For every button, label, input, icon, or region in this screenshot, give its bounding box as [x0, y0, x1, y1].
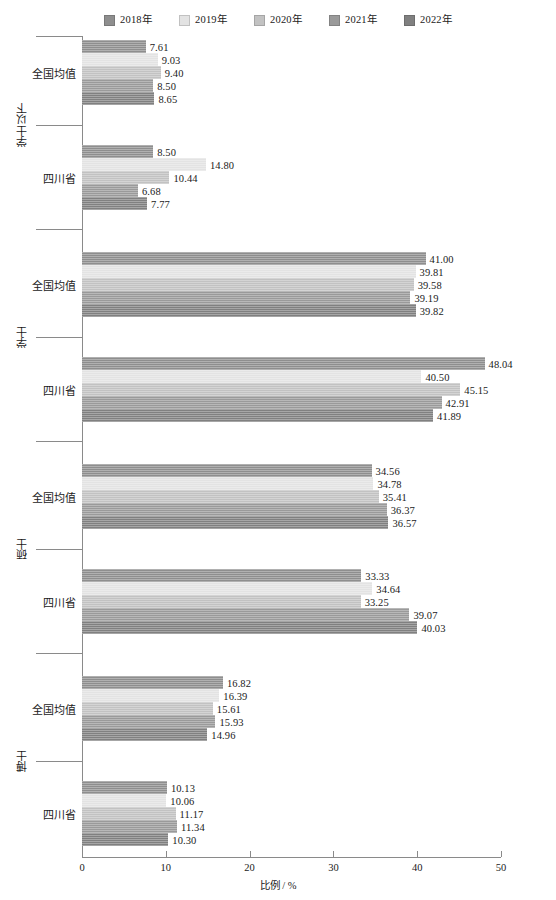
bar-2021年-硕士-全国均值[interactable]	[82, 503, 387, 516]
bar-value-label: 11.34	[181, 821, 205, 832]
legend-item-2019年[interactable]: 2019年	[179, 15, 227, 26]
bar-2018年-学士-四川省[interactable]	[82, 357, 485, 370]
bar-texture	[82, 794, 166, 807]
bar-2020年-学士以下-全国均值[interactable]	[82, 66, 161, 79]
bar-2022年-学士-四川省[interactable]	[82, 409, 433, 422]
bar-2018年-学士-全国均值[interactable]	[82, 252, 426, 265]
bar-2022年-学士以下-全国均值[interactable]	[82, 92, 154, 105]
bar-2021年-博士-全国均值[interactable]	[82, 715, 215, 728]
bar-2019年-硕士-全国均值[interactable]	[82, 477, 373, 490]
bar-value-label: 41.00	[430, 253, 454, 264]
bar-2018年-学士以下-四川省[interactable]	[82, 145, 153, 158]
bar-2019年-博士-全国均值[interactable]	[82, 689, 219, 702]
bar-2021年-硕士-四川省[interactable]	[82, 608, 409, 621]
bar-row: 11.17	[82, 807, 556, 820]
legend-item-2021年[interactable]: 2021年	[329, 15, 377, 26]
bar-value-label: 39.81	[420, 266, 444, 277]
group-divider	[36, 125, 82, 126]
bar-2018年-博士-全国均值[interactable]	[82, 676, 223, 689]
bar-texture	[82, 464, 372, 477]
bar-2021年-学士-全国均值[interactable]	[82, 291, 410, 304]
bar-2020年-硕士-四川省[interactable]	[82, 595, 361, 608]
bar-2022年-硕士-全国均值[interactable]	[82, 516, 388, 529]
legend-label: 2022年	[420, 15, 452, 26]
bar-value-label: 7.61	[150, 41, 169, 52]
bar-row: 16.82	[82, 676, 556, 689]
bar-2019年-学士-四川省[interactable]	[82, 370, 421, 383]
x-axis-label: 比例 / %	[0, 877, 556, 892]
bar-2022年-学士-全国均值[interactable]	[82, 304, 416, 317]
bar-row: 9.03	[82, 53, 556, 66]
subgroup-label-全国均值: 全国均值	[28, 489, 76, 505]
bar-value-label: 34.64	[376, 583, 400, 594]
bar-value-label: 6.68	[142, 185, 161, 196]
bar-2021年-学士-四川省[interactable]	[82, 396, 442, 409]
bar-row: 8.65	[82, 92, 556, 105]
bar-row: 15.61	[82, 702, 556, 715]
legend-swatch-icon	[104, 15, 115, 26]
group-boundary	[36, 653, 82, 654]
subgroup-label-四川省: 四川省	[28, 382, 76, 398]
x-tick-mark	[250, 851, 251, 857]
bar-value-label: 40.50	[425, 371, 449, 382]
bar-2019年-学士以下-全国均值[interactable]	[82, 53, 158, 66]
subgroup-label-四川省: 四川省	[28, 806, 76, 822]
subgroup-label-全国均值: 全国均值	[28, 701, 76, 717]
bar-2018年-硕士-全国均值[interactable]	[82, 464, 372, 477]
bar-texture	[82, 833, 168, 846]
bar-2018年-博士-四川省[interactable]	[82, 781, 167, 794]
bar-row: 34.64	[82, 582, 556, 595]
legend-item-2018年[interactable]: 2018年	[104, 15, 152, 26]
bar-row: 9.40	[82, 66, 556, 79]
bar-value-label: 36.37	[391, 504, 415, 515]
bar-texture	[82, 197, 147, 210]
x-axis-line	[82, 857, 501, 858]
bar-row: 33.25	[82, 595, 556, 608]
bar-value-label: 10.13	[171, 782, 195, 793]
bar-2020年-硕士-全国均值[interactable]	[82, 490, 379, 503]
bar-row: 15.93	[82, 715, 556, 728]
legend-label: 2020年	[270, 15, 302, 26]
bar-2020年-学士-全国均值[interactable]	[82, 278, 414, 291]
bar-2022年-博士-全国均值[interactable]	[82, 728, 207, 741]
bar-2018年-硕士-四川省[interactable]	[82, 569, 361, 582]
bar-texture	[82, 516, 388, 529]
bar-2021年-学士以下-四川省[interactable]	[82, 184, 138, 197]
bar-texture	[82, 396, 442, 409]
bar-texture	[82, 383, 460, 396]
bar-texture	[82, 304, 416, 317]
bar-2018年-学士以下-全国均值[interactable]	[82, 40, 146, 53]
bar-value-label: 10.44	[173, 172, 197, 183]
bar-2020年-学士-四川省[interactable]	[82, 383, 460, 396]
bar-row: 41.89	[82, 409, 556, 422]
legend-item-2022年[interactable]: 2022年	[404, 15, 452, 26]
bar-2019年-学士以下-四川省[interactable]	[82, 158, 206, 171]
bar-value-label: 36.57	[392, 517, 416, 528]
bar-2021年-学士以下-全国均值[interactable]	[82, 79, 153, 92]
bar-row: 7.77	[82, 197, 556, 210]
bar-row: 10.06	[82, 794, 556, 807]
group-divider	[36, 761, 82, 762]
group-boundary	[36, 229, 82, 230]
x-tick-label: 40	[412, 862, 423, 873]
x-tick-mark	[166, 851, 167, 857]
bar-2019年-硕士-四川省[interactable]	[82, 582, 372, 595]
legend-swatch-icon	[329, 15, 340, 26]
bar-row: 42.91	[82, 396, 556, 409]
bar-value-label: 42.91	[446, 397, 470, 408]
group-divider	[36, 337, 82, 338]
bar-2019年-博士-四川省[interactable]	[82, 794, 166, 807]
bar-texture	[82, 490, 379, 503]
legend-item-2020年[interactable]: 2020年	[254, 15, 302, 26]
bar-row: 6.68	[82, 184, 556, 197]
bar-2021年-博士-四川省[interactable]	[82, 820, 177, 833]
bar-value-label: 9.40	[165, 67, 184, 78]
bar-2022年-学士以下-四川省[interactable]	[82, 197, 147, 210]
bar-2020年-博士-四川省[interactable]	[82, 807, 176, 820]
bar-2022年-硕士-四川省[interactable]	[82, 621, 417, 634]
bar-2019年-学士-全国均值[interactable]	[82, 265, 416, 278]
bar-2020年-学士以下-四川省[interactable]	[82, 171, 169, 184]
bar-value-label: 16.82	[227, 677, 251, 688]
bar-2022年-博士-四川省[interactable]	[82, 833, 168, 846]
bar-2020年-博士-全国均值[interactable]	[82, 702, 213, 715]
